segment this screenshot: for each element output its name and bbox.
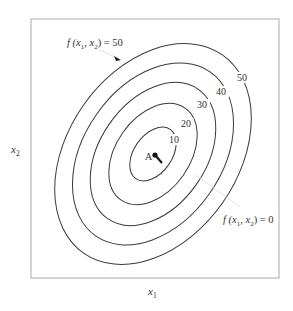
ann-top-suffix: ) = 50	[98, 37, 123, 49]
x-axis-label: x1	[147, 285, 157, 300]
ann-bot-suffix: ) = 0	[254, 214, 274, 226]
point-a-dot	[152, 152, 157, 157]
contour-label-group: 1020304050	[167, 72, 250, 145]
arrowhead-top-icon	[114, 56, 121, 61]
contour-label-50: 50	[237, 72, 247, 83]
y-axis-label-sub: 2	[16, 149, 20, 158]
y-axis-label: x2	[10, 143, 20, 158]
contour-label-30: 30	[197, 99, 207, 110]
contour-label-10: 10	[169, 134, 179, 145]
point-a-label: A	[145, 151, 153, 162]
contour-label-40: 40	[216, 86, 226, 97]
annotation-f-equals-50: f (x1, x2) = 50	[67, 37, 123, 51]
point-a: A	[145, 151, 162, 163]
annotation-f-equals-0: f (x1, x2) = 0	[223, 214, 274, 228]
contour-label-20: 20	[181, 118, 191, 129]
x-axis-label-sub: 1	[153, 291, 157, 300]
contour-diagram: 1020304050 A f (x1, x2) = 50 f (x1, x2) …	[0, 0, 293, 311]
